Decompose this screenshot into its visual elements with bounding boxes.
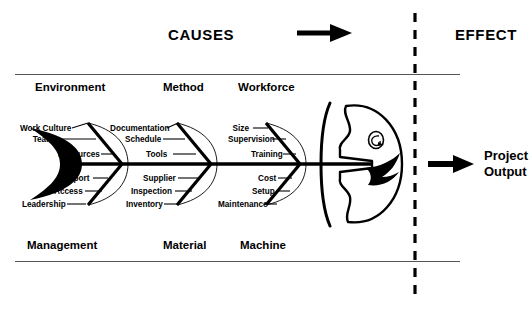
- cause-label-work-culture: Work Culture: [20, 124, 72, 133]
- causes-header-label: CAUSES: [168, 26, 234, 43]
- effect-arrow-icon: [428, 155, 474, 173]
- category-label-workforce: Workforce: [238, 81, 295, 93]
- effect-label-line2: Output: [484, 164, 527, 179]
- category-label-machine: Machine: [240, 239, 286, 251]
- cause-label-schedule: Schedule: [125, 135, 162, 144]
- cause-label-access: Access: [54, 187, 83, 196]
- cause-label-teams: Teams: [33, 135, 59, 144]
- category-label-environment: Environment: [35, 81, 105, 93]
- cause-label-size: Size: [233, 124, 250, 133]
- category-label-management: Management: [27, 239, 97, 251]
- cause-label-documentation: Documentation: [110, 124, 170, 133]
- cause-label-leadership: Leadership: [22, 200, 66, 209]
- cause-label-supervision: Supervision: [228, 135, 275, 144]
- fishbone-diagram: CAUSES EFFECT Environment Method Workfor…: [0, 0, 532, 309]
- cause-label-cost: Cost: [258, 174, 276, 183]
- cause-label-setup: Setup: [252, 187, 275, 196]
- effect-label-line1: Project: [484, 148, 529, 163]
- cause-label-maintenance: Maintenance: [218, 200, 268, 209]
- cause-label-inventory: Inventory: [126, 200, 163, 209]
- category-label-material: Material: [163, 239, 206, 251]
- cause-label-inspection: Inspection: [131, 187, 172, 196]
- leader-work-culture: [72, 123, 88, 128]
- fishbone-diagram-canvas: CAUSES EFFECT Environment Method Workfor…: [0, 0, 532, 309]
- category-label-method: Method: [163, 81, 204, 93]
- effect-header-label: EFFECT: [455, 26, 517, 43]
- cause-label-training: Training: [251, 150, 283, 159]
- cause-label-tools: Tools: [146, 150, 168, 159]
- fish-mouth-icon: [366, 153, 400, 185]
- cause-label-supplier: Supplier: [143, 174, 177, 183]
- cause-label-resources: Resources: [58, 150, 100, 159]
- causes-flow-arrow-icon: [297, 24, 352, 42]
- cause-label-support: Support: [58, 174, 90, 183]
